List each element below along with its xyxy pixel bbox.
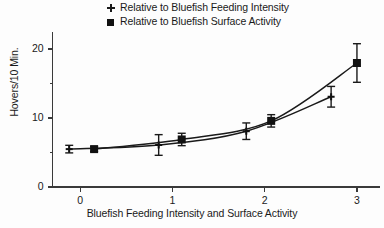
data-point-square bbox=[90, 145, 98, 153]
axes-layer bbox=[48, 32, 380, 192]
data-point-plus bbox=[328, 93, 335, 100]
x-tick-label: 0 bbox=[60, 194, 100, 206]
data-point-square bbox=[353, 59, 361, 67]
y-tick-label: 20 bbox=[20, 42, 44, 54]
data-point-square bbox=[178, 135, 186, 143]
data-point-plus bbox=[66, 146, 73, 153]
data-point-square bbox=[267, 117, 275, 125]
data-series-layer bbox=[65, 44, 361, 156]
x-tick-label: 1 bbox=[153, 194, 193, 206]
x-tick-label: 2 bbox=[245, 194, 285, 206]
y-tick-label: 0 bbox=[20, 180, 44, 192]
series-curve bbox=[69, 97, 331, 149]
x-axis-title: Bluefish Feeding Intensity and Surface A… bbox=[0, 207, 384, 219]
x-tick-label: 3 bbox=[337, 194, 377, 206]
chart-figure: Relative to Bluefish Feeding Intensity R… bbox=[0, 0, 384, 228]
y-tick-label: 10 bbox=[20, 111, 44, 123]
y-axis-title: Hovers/10 Min. bbox=[8, 22, 20, 142]
series-feeding-intensity bbox=[65, 86, 335, 155]
